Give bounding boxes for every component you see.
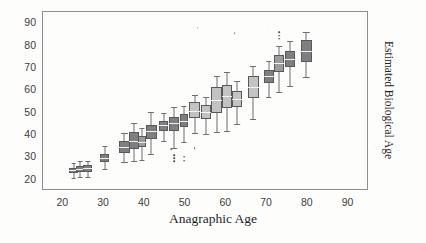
box-body bbox=[189, 102, 200, 118]
box-plot bbox=[201, 12, 211, 189]
stray-mark bbox=[197, 27, 199, 29]
whisker-upper bbox=[216, 76, 217, 88]
cap-upper bbox=[277, 46, 283, 47]
x-tick-70: 70 bbox=[260, 196, 272, 208]
cap-upper bbox=[203, 97, 209, 98]
x-tick-80: 80 bbox=[301, 196, 313, 208]
y-axis-title: Estimated Biological Age bbox=[381, 11, 397, 190]
cap-lower bbox=[214, 132, 220, 133]
plot-frame bbox=[42, 11, 368, 190]
cap-upper bbox=[161, 113, 167, 114]
whisker-lower bbox=[151, 139, 152, 154]
cap-upper bbox=[78, 161, 83, 162]
whisker-lower bbox=[174, 131, 175, 149]
cap-lower bbox=[224, 131, 230, 132]
cap-lower bbox=[250, 119, 256, 120]
median-line bbox=[264, 76, 274, 77]
cap-lower bbox=[203, 134, 209, 135]
cap-lower bbox=[303, 77, 310, 78]
y-tick-30: 30 bbox=[10, 150, 36, 162]
whisker-upper bbox=[227, 72, 228, 85]
whisker-upper bbox=[134, 123, 135, 132]
whisker-upper bbox=[142, 128, 143, 135]
y-tick-70: 70 bbox=[10, 61, 36, 73]
cap-upper bbox=[303, 32, 310, 33]
outlier-point bbox=[183, 160, 185, 162]
cap-upper bbox=[131, 123, 137, 124]
cap-upper bbox=[224, 72, 230, 73]
box-plot bbox=[264, 12, 274, 189]
whisker-lower bbox=[124, 153, 125, 162]
median-line bbox=[211, 100, 222, 101]
whisker-upper bbox=[151, 112, 152, 125]
cap-lower bbox=[139, 160, 144, 161]
whisker-lower bbox=[236, 107, 237, 124]
cap-lower bbox=[181, 142, 186, 143]
cap-lower bbox=[121, 162, 127, 163]
cap-upper bbox=[181, 106, 186, 107]
outlier-point bbox=[279, 38, 281, 40]
whisker-lower bbox=[216, 113, 217, 132]
x-tick-20: 20 bbox=[57, 196, 69, 208]
median-line bbox=[169, 123, 179, 124]
box-plot bbox=[189, 12, 200, 189]
y-tick-60: 60 bbox=[10, 83, 36, 95]
cap-lower bbox=[266, 97, 272, 98]
chart-canvas: 2030405060708090 2030405060708090 Anagra… bbox=[0, 0, 426, 243]
whisker-lower bbox=[205, 119, 206, 133]
whisker-lower bbox=[142, 147, 143, 160]
outlier-point bbox=[173, 154, 175, 156]
cap-upper bbox=[121, 133, 127, 134]
cap-lower bbox=[85, 177, 90, 178]
outlier-point bbox=[194, 147, 196, 149]
box-plot bbox=[301, 12, 312, 189]
whisker-upper bbox=[306, 32, 307, 40]
x-tick-30: 30 bbox=[97, 196, 109, 208]
median-line bbox=[232, 99, 242, 100]
cap-lower bbox=[71, 178, 76, 179]
cap-lower bbox=[287, 86, 293, 87]
box-plot bbox=[211, 12, 222, 189]
box-plot bbox=[146, 12, 157, 189]
x-tick-90: 90 bbox=[342, 196, 354, 208]
median-line bbox=[274, 63, 284, 64]
whisker-lower bbox=[268, 83, 269, 97]
whisker-upper bbox=[236, 81, 237, 91]
median-line bbox=[180, 121, 189, 122]
cap-upper bbox=[71, 163, 76, 164]
whisker-lower bbox=[253, 98, 254, 119]
whisker-lower bbox=[183, 127, 184, 141]
whisker-lower bbox=[306, 62, 307, 77]
median-line bbox=[248, 87, 259, 88]
outlier-point bbox=[173, 161, 175, 163]
cap-upper bbox=[102, 146, 107, 147]
whisker-upper bbox=[205, 97, 206, 105]
outlier-point bbox=[279, 35, 281, 37]
cap-upper bbox=[250, 66, 256, 67]
y-axis-title-text: Estimated Biological Age bbox=[383, 41, 395, 159]
cap-upper bbox=[214, 76, 220, 77]
x-tick-40: 40 bbox=[138, 196, 150, 208]
box-plot bbox=[248, 12, 259, 189]
whisker-upper bbox=[253, 66, 254, 77]
outlier-point bbox=[279, 31, 281, 33]
x-tick-50: 50 bbox=[179, 196, 191, 208]
cap-upper bbox=[287, 41, 293, 42]
cap-lower bbox=[171, 148, 177, 149]
whisker-lower bbox=[163, 131, 164, 141]
median-line bbox=[83, 168, 92, 169]
whisker-lower bbox=[289, 67, 290, 86]
cap-upper bbox=[85, 161, 90, 162]
whisker-lower bbox=[279, 72, 280, 91]
whisker-upper bbox=[174, 107, 175, 117]
y-tick-90: 90 bbox=[10, 16, 36, 28]
box-plot bbox=[274, 12, 284, 189]
cap-upper bbox=[234, 81, 240, 82]
box-body bbox=[169, 117, 179, 130]
x-axis-title: Anagraphic Age bbox=[0, 211, 426, 227]
y-tick-80: 80 bbox=[10, 39, 36, 51]
whisker-upper bbox=[104, 146, 105, 154]
whisker-upper bbox=[163, 113, 164, 121]
median-line bbox=[201, 112, 211, 113]
median-line bbox=[189, 111, 200, 112]
